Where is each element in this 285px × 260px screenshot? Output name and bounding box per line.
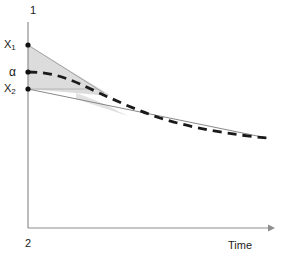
x-axis-title-label: Time (228, 240, 252, 251)
marker-dot-x1 (25, 42, 30, 47)
marker-label-x1-sub: 1 (11, 43, 15, 52)
marker-label-x1: X1 (4, 39, 16, 50)
x-axis-origin-label: 2 (25, 238, 31, 249)
marker-label-x2-sub: 2 (11, 87, 15, 96)
marker-label-alpha: α (9, 66, 16, 78)
marker-label-x2: X2 (4, 83, 16, 94)
marker-dot-alpha (25, 69, 30, 74)
x-axis-arrowhead-icon (268, 225, 275, 232)
y-axis-top-label: 1 (30, 5, 36, 16)
plot-canvas (0, 0, 285, 260)
marker-dot-x2 (25, 86, 30, 91)
figure-container: 1 2 Time X1 α X2 (0, 0, 285, 260)
